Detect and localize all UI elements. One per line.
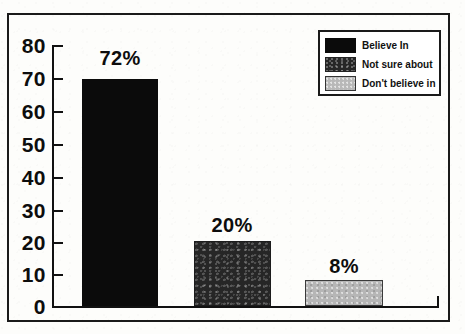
y-axis-labels: 80 70 60 50 40 30 20 10 0 bbox=[0, 0, 46, 334]
y-tick-20 bbox=[52, 242, 63, 244]
y-label-40: 40 bbox=[4, 167, 46, 188]
bar-not-sure-about[interactable] bbox=[194, 241, 271, 306]
bar-label-believe-in: 72% bbox=[80, 48, 160, 68]
legend-label-dont-believe-in: Don't believe in bbox=[362, 78, 436, 89]
y-label-50: 50 bbox=[4, 134, 46, 155]
y-label-80: 80 bbox=[4, 35, 46, 56]
y-tick-10 bbox=[52, 274, 63, 276]
bar-dont-believe-in[interactable] bbox=[305, 280, 383, 306]
legend-swatch-icon-not-sure-about bbox=[325, 57, 356, 72]
y-tick-80 bbox=[52, 45, 63, 47]
y-label-30: 30 bbox=[4, 200, 46, 221]
y-tick-70 bbox=[52, 78, 63, 80]
chart-page: 80 70 60 50 40 30 20 10 0 72% 20% 8% Bel… bbox=[0, 0, 465, 334]
y-tick-60 bbox=[52, 111, 63, 113]
legend-swatch-icon-believe-in bbox=[325, 38, 356, 53]
bar-believe-in[interactable] bbox=[82, 79, 158, 306]
chart-legend[interactable]: Believe In Not sure about Don't believe … bbox=[318, 30, 441, 96]
plot-area: 80 70 60 50 40 30 20 10 0 72% 20% 8% Bel… bbox=[0, 0, 465, 334]
bar-label-dont-believe-in: 8% bbox=[304, 256, 384, 276]
bar-label-not-sure-about: 20% bbox=[192, 215, 272, 235]
y-tick-40 bbox=[52, 177, 63, 179]
x-axis-end-tick bbox=[437, 296, 439, 308]
legend-item-not-sure-about[interactable]: Not sure about bbox=[323, 55, 436, 73]
legend-label-not-sure-about: Not sure about bbox=[362, 59, 433, 70]
legend-label-believe-in: Believe In bbox=[362, 40, 409, 51]
y-label-10: 10 bbox=[4, 264, 46, 285]
legend-swatch-icon-dont-believe-in bbox=[325, 76, 356, 91]
y-label-60: 60 bbox=[4, 101, 46, 122]
legend-item-believe-in[interactable]: Believe In bbox=[323, 36, 436, 54]
y-label-20: 20 bbox=[4, 232, 46, 253]
x-axis-line bbox=[52, 306, 439, 308]
y-label-70: 70 bbox=[4, 68, 46, 89]
y-tick-50 bbox=[52, 144, 63, 146]
y-tick-30 bbox=[52, 210, 63, 212]
legend-item-dont-believe-in[interactable]: Don't believe in bbox=[323, 74, 436, 92]
y-label-0: 0 bbox=[4, 296, 46, 317]
